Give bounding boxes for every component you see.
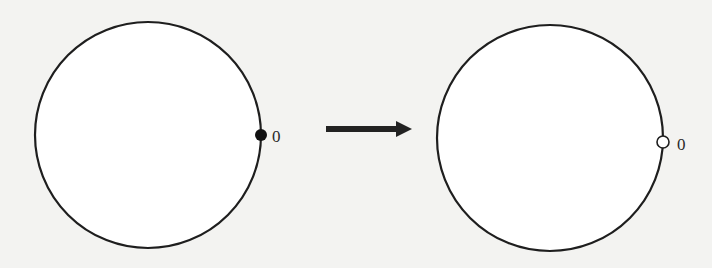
diagram-svg: 0 0 [0,0,712,268]
filled-point-icon [255,129,267,141]
left-panel: 0 [35,22,281,248]
open-point-icon [657,136,669,148]
left-point-label: 0 [272,127,281,146]
right-circle [437,25,663,251]
right-point-label: 0 [677,135,686,154]
diagram-canvas: 0 0 [0,0,712,268]
arrow-shaft [326,126,398,132]
right-panel: 0 [437,25,686,251]
transition-arrow [326,121,412,137]
left-circle [35,22,261,248]
arrow-head-icon [396,121,412,137]
